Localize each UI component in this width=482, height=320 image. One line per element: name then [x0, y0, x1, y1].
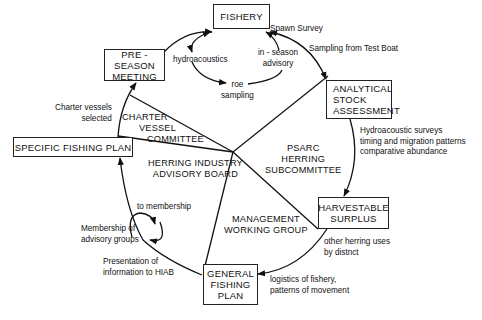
analytical-label-3: ASSESSMENT	[333, 105, 400, 116]
region-hiab-line-2: ADVISORY BOARD	[148, 169, 243, 180]
region-charter-line-3: COMMITTEE	[122, 134, 204, 145]
label-logistics-2: patterns of movement	[270, 286, 349, 297]
label-spawn-survey-text: Spawn Survey	[270, 24, 323, 35]
label-to-membership: to membership	[137, 202, 191, 213]
label-hydro-3: comparative abundance	[360, 147, 466, 158]
region-psarc-line-3: SUBCOMMITTEE	[265, 165, 341, 176]
label-charter-2: selected	[55, 114, 112, 125]
label-charter-vessels-selected: Charter vessels selected	[55, 103, 112, 124]
label-membership-2: advisory groups	[81, 235, 139, 246]
analytical-label-2: STOCK	[333, 94, 367, 105]
label-hydroacoustics-text: hydroacoustics	[173, 55, 228, 66]
label-other-herring-uses: other herring uses by distnct	[324, 237, 390, 258]
label-roe-2: sampling	[221, 91, 254, 102]
region-charter-vessel-committee: CHARTER VESSEL COMMITTEE	[122, 112, 204, 145]
pre-season-meeting-box: PRE - SEASON MEETING	[104, 49, 165, 81]
label-roe-1: roe	[221, 80, 254, 91]
label-presentation-1: Presentation of	[103, 257, 174, 268]
fishery-box: FISHERY	[213, 4, 270, 29]
label-in-season-advisory: in - season advisory	[258, 48, 298, 69]
region-herring-industry-advisory-board: HERRING INDUSTRY ADVISORY BOARD	[148, 158, 243, 180]
label-presentation-2: information to HIAB	[103, 268, 174, 279]
label-hydroacoustics: hydroacoustics	[173, 55, 228, 66]
label-roe-sampling: roe sampling	[221, 80, 254, 101]
region-hiab-line-1: HERRING INDUSTRY	[148, 158, 243, 169]
label-logistics: logistics of fishery, patterns of moveme…	[270, 275, 349, 296]
harvestable-surplus-box: HARVESTABLE SURPLUS	[318, 197, 389, 229]
label-logistics-1: logistics of fishery,	[270, 275, 349, 286]
specific-plan-label: SPECIFIC FISHING PLAN	[15, 142, 132, 153]
label-hydro-2: timing and migration patterns	[360, 137, 466, 148]
harvestable-label-2: SURPLUS	[330, 213, 376, 224]
region-management-working-group: MANAGEMENT WORKING GROUP	[224, 214, 308, 236]
analytical-label-1: ANALYTICAL	[333, 83, 392, 94]
region-psarc-herring-subcommittee: PSARC HERRING SUBCOMMITTEE	[265, 143, 341, 176]
label-to-membership-text: to membership	[137, 202, 191, 213]
general-fishing-plan-box: GENERAL FISHING PLAN	[203, 264, 258, 305]
label-sampling-test-boat: Sampling from Test Boat	[309, 44, 398, 55]
region-mwg-line-1: MANAGEMENT	[224, 214, 308, 225]
label-hydro-1: Hydroacoustic surveys	[360, 126, 466, 137]
region-psarc-line-2: HERRING	[265, 154, 341, 165]
pre-season-label-2: MEETING	[112, 71, 157, 82]
label-membership-advisory-groups: Membership of advisory groups	[81, 224, 139, 245]
fishery-label: FISHERY	[220, 11, 262, 22]
label-charter-1: Charter vessels	[55, 103, 112, 114]
label-spawn-survey: Spawn Survey	[270, 24, 323, 35]
label-hydroacoustic-surveys: Hydroacoustic surveys timing and migrati…	[360, 126, 466, 158]
label-in-season-2: advisory	[258, 59, 298, 70]
label-in-season-1: in - season	[258, 48, 298, 59]
label-other-2: by distnct	[324, 248, 390, 259]
label-membership-1: Membership of	[81, 224, 139, 235]
general-plan-label-1: GENERAL	[207, 268, 254, 279]
specific-fishing-plan-box: SPECIFIC FISHING PLAN	[13, 137, 133, 157]
region-charter-line-2: VESSEL	[122, 123, 204, 134]
harvestable-label-1: HARVESTABLE	[318, 202, 389, 213]
region-psarc-line-1: PSARC	[265, 143, 341, 154]
label-presentation-hiab: Presentation of information to HIAB	[103, 257, 174, 278]
region-mwg-line-2: WORKING GROUP	[224, 225, 308, 236]
region-charter-line-1: CHARTER	[122, 112, 204, 123]
pre-season-label-1: PRE - SEASON	[105, 49, 164, 71]
analytical-stock-assessment-box: ANALYTICAL STOCK ASSESSMENT	[326, 80, 392, 119]
label-test-boat-text: Sampling from Test Boat	[309, 44, 398, 55]
general-plan-label-3: PLAN	[218, 290, 244, 301]
general-plan-label-2: FISHING	[211, 279, 251, 290]
label-other-1: other herring uses	[324, 237, 390, 248]
